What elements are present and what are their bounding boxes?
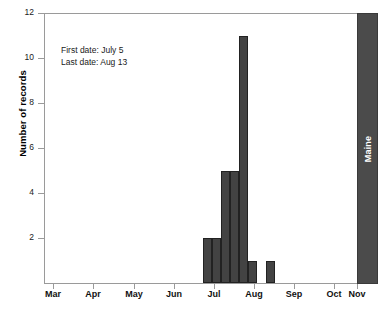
y-tick-12 (38, 13, 44, 14)
y-tick-6 (38, 148, 44, 149)
x-tick-label-may: May (114, 290, 154, 300)
bar (212, 238, 221, 283)
y-axis-title: Number of records (17, 49, 28, 179)
bar (266, 261, 275, 284)
y-tick-10 (38, 58, 44, 59)
y-tick-label-4: 4 (0, 188, 34, 197)
x-tick-label-sep: Sep (274, 290, 314, 300)
x-tick-label-jun: Jun (154, 290, 194, 300)
y-tick-2 (38, 238, 44, 239)
y-tick-label-12: 12 (0, 8, 34, 17)
bar (248, 261, 257, 284)
bar (230, 171, 239, 284)
annotation-last-date: Last date: Aug 13 (61, 56, 127, 68)
bar (203, 238, 212, 283)
x-tick-label-mar: Mar (33, 290, 73, 300)
bar (239, 36, 248, 284)
chart-figure: 24681012 Number of records MarAprMayJunJ… (0, 0, 392, 309)
y-tick-8 (38, 103, 44, 104)
x-tick-label-jul: Jul (194, 290, 234, 300)
x-tick-label-aug: Aug (234, 290, 274, 300)
panel-strip-label: Maine (363, 135, 373, 162)
panel-strip-maine: Maine (357, 13, 378, 284)
y-tick-label-2: 2 (0, 233, 34, 242)
annotation-text: First date: July 5 Last date: Aug 13 (61, 44, 127, 69)
annotation-first-date: First date: July 5 (61, 44, 127, 56)
bar (221, 171, 230, 284)
y-tick-4 (38, 193, 44, 194)
x-tick-label-nov: Nov (337, 290, 377, 300)
x-tick-label-apr: Apr (73, 290, 113, 300)
x-axis-line (44, 283, 357, 284)
